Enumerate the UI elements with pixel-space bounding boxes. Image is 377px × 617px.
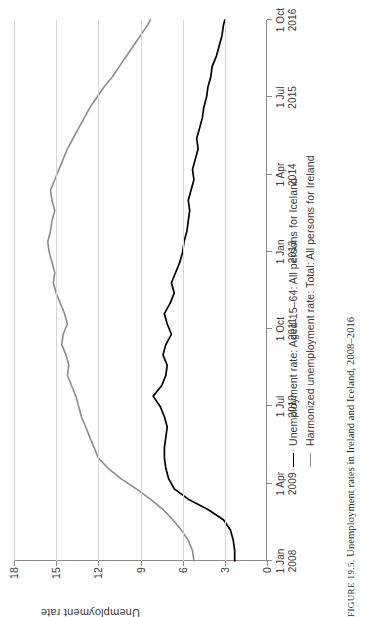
y-axis-tick-label: 15 bbox=[51, 567, 62, 601]
y-axis-tick-label: 9 bbox=[135, 567, 146, 601]
chart-legend: Unemployment rate: Aged 15–64: All perso… bbox=[287, 155, 321, 467]
y-axis-tick bbox=[141, 561, 142, 566]
rotated-figure-page: 03691215181 Jan20081 Apr20091 Jul20101 O… bbox=[0, 0, 377, 617]
gridline-y bbox=[56, 20, 57, 561]
y-axis-tick-label: 18 bbox=[9, 567, 20, 601]
x-axis-tick-label: 1 Oct2016 bbox=[275, 8, 298, 32]
figure-number: FIGURE 19.5. bbox=[346, 559, 356, 617]
x-axis-tick bbox=[267, 251, 272, 252]
y-axis-tick-label: 12 bbox=[93, 567, 104, 601]
gridline-y bbox=[183, 20, 184, 561]
x-axis-tick bbox=[267, 174, 272, 175]
legend-item-iceland: Unemployment rate: Aged 15–64: All perso… bbox=[287, 155, 299, 467]
y-axis-tick bbox=[56, 561, 57, 566]
gridline-y bbox=[141, 20, 142, 561]
legend-label-iceland: Unemployment rate: Aged 15–64: All perso… bbox=[287, 178, 299, 446]
y-axis-tick bbox=[267, 561, 268, 566]
series-line-ireland bbox=[48, 20, 194, 561]
figure-container: 03691215181 Jan20081 Apr20091 Jul20101 O… bbox=[0, 0, 377, 617]
y-axis-tick bbox=[14, 561, 15, 566]
x-axis-tick bbox=[267, 560, 272, 561]
y-axis-tick-label: 6 bbox=[177, 567, 188, 601]
x-axis-tick bbox=[267, 405, 272, 406]
legend-item-ireland: Harmonized unemployment rate: Total: All… bbox=[304, 155, 316, 467]
x-axis-tick bbox=[267, 328, 272, 329]
legend-label-ireland: Harmonized unemployment rate: Total: All… bbox=[304, 155, 316, 446]
x-axis-tick-label: 1 Jan2008 bbox=[275, 549, 298, 574]
y-axis-title: Unemployment rate bbox=[41, 607, 140, 617]
gridline-y bbox=[14, 20, 15, 561]
chart-plot-area: 03691215181 Jan20081 Apr20091 Jul20101 O… bbox=[14, 20, 267, 561]
series-line-iceland bbox=[153, 20, 235, 561]
y-axis-tick-label: 0 bbox=[262, 567, 273, 601]
x-axis-tick-label: 1 Jul2015 bbox=[275, 86, 298, 109]
x-axis-tick-label: 1 Apr2009 bbox=[275, 472, 298, 496]
y-axis-tick bbox=[183, 561, 184, 566]
y-axis-tick-label: 3 bbox=[220, 567, 231, 601]
x-axis-tick bbox=[267, 19, 272, 20]
legend-swatch-iceland-icon bbox=[293, 453, 294, 467]
gridline-y bbox=[98, 20, 99, 561]
figure-caption: FIGURE 19.5. Unemployment rates in Irela… bbox=[345, 317, 356, 617]
figure-caption-text: Unemployment rates in Ireland and Icelan… bbox=[345, 317, 356, 557]
legend-swatch-ireland-icon bbox=[310, 453, 311, 467]
x-axis-tick bbox=[267, 96, 272, 97]
x-axis-tick bbox=[267, 483, 272, 484]
gridline-y bbox=[225, 20, 226, 561]
y-axis-tick bbox=[225, 561, 226, 566]
y-axis-tick bbox=[98, 561, 99, 566]
